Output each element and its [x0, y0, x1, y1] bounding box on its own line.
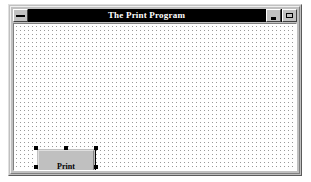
minimize-icon	[271, 17, 276, 20]
selection-handle-top-center[interactable]	[64, 146, 68, 150]
print-button-label: Print	[57, 163, 75, 171]
selection-handle-middle-right[interactable]	[94, 165, 98, 169]
system-menu-icon[interactable]	[13, 9, 28, 22]
maximize-icon	[286, 13, 293, 18]
window-controls	[265, 9, 297, 22]
minimize-button[interactable]	[266, 9, 281, 22]
print-label-rest: rint	[62, 162, 75, 171]
selection-handle-middle-left[interactable]	[34, 165, 38, 169]
window-inner-frame: The Print Program Print	[10, 6, 300, 174]
form-design-surface[interactable]: Print Exit	[13, 23, 297, 171]
selection-handle-top-left[interactable]	[34, 146, 38, 150]
window-title: The Print Program	[28, 9, 265, 22]
title-bar[interactable]: The Print Program	[13, 9, 297, 22]
screenshot-root: The Print Program Print	[0, 0, 311, 182]
exit-button[interactable]: Exit	[260, 169, 297, 171]
selection-handle-top-right[interactable]	[94, 146, 98, 150]
application-window: The Print Program Print	[8, 4, 302, 176]
maximize-button[interactable]	[282, 9, 297, 22]
print-button[interactable]: Print	[36, 148, 96, 171]
